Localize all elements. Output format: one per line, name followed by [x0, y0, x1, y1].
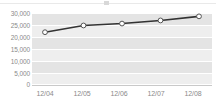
- data-point[interactable]: [43, 30, 48, 35]
- data-point[interactable]: [81, 23, 86, 28]
- line-chart: 30,000 25,000 20,000 15,000 10,000 5,000…: [0, 0, 216, 104]
- data-point[interactable]: [197, 14, 202, 19]
- data-point[interactable]: [158, 18, 163, 23]
- data-series-layer: [0, 0, 216, 104]
- data-point[interactable]: [120, 21, 125, 26]
- series-markers: [43, 14, 202, 35]
